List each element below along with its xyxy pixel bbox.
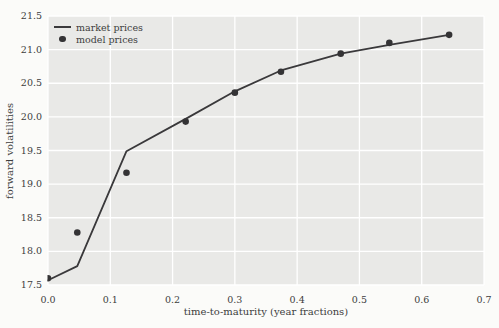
legend-item-market-prices: market prices	[54, 21, 143, 33]
legend-label-model-prices: model prices	[76, 34, 138, 45]
dot-sample-icon	[54, 36, 71, 43]
y-tick-label: 20.0	[0, 111, 42, 123]
x-tick-label: 0.4	[282, 294, 312, 306]
legend-label-market-prices: market prices	[76, 22, 143, 33]
x-tick-label: 0.1	[95, 294, 125, 306]
x-axis-label: time-to-maturity (year fractions)	[48, 306, 484, 317]
x-tick-label: 0.7	[469, 294, 499, 306]
y-tick-label: 21.0	[0, 44, 42, 56]
x-tick-label: 0.2	[158, 294, 188, 306]
legend: market prices model prices	[54, 21, 143, 45]
x-tick-label: 0.0	[33, 294, 63, 306]
plot-area	[0, 0, 499, 328]
y-tick-label: 17.5	[0, 279, 42, 291]
dot-sample-icon	[59, 36, 66, 43]
x-tick-label: 0.5	[344, 294, 374, 306]
y-tick-label: 20.5	[0, 77, 42, 89]
x-tick-label: 0.6	[407, 294, 437, 306]
y-tick-label: 21.5	[0, 10, 42, 22]
line-sample-icon	[54, 26, 71, 28]
x-tick-label: 0.3	[220, 294, 250, 306]
y-tick-label: 19.5	[0, 145, 42, 157]
y-tick-label: 19.0	[0, 178, 42, 190]
y-tick-label: 18.0	[0, 245, 42, 257]
legend-item-model-prices: model prices	[54, 33, 143, 45]
y-tick-label: 18.5	[0, 212, 42, 224]
chart-figure: forward volatilities time-to-maturity (y…	[0, 0, 499, 328]
line-sample-icon	[54, 26, 71, 28]
